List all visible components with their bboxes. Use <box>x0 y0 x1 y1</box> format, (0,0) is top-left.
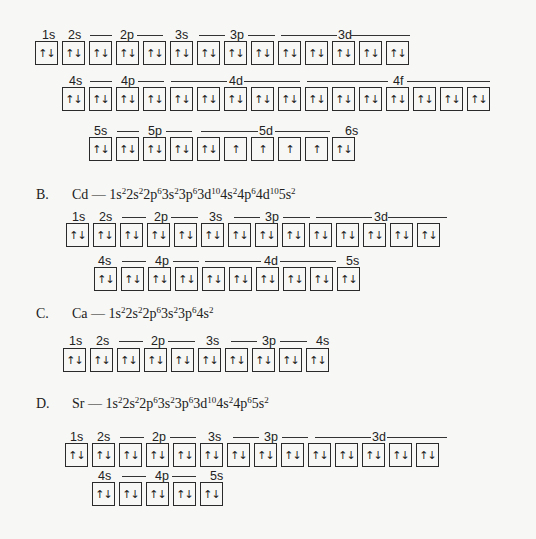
orbital-labels: 1s2s2p3s3p3d <box>0 210 536 224</box>
orbital-box-paired-electrons: ↑↓ <box>229 267 252 291</box>
orbital-box-paired-electrons: ↑↓ <box>359 87 382 111</box>
sublevel-label: 3p <box>262 334 276 348</box>
sublevel-label: 4f <box>393 74 403 88</box>
element-symbol: Sr — <box>72 396 105 411</box>
orbital-box-paired-electrons: ↑↓ <box>198 348 221 372</box>
sublevel-span-line <box>120 437 144 438</box>
orbital-box-paired-electrons: ↑↓ <box>281 443 304 467</box>
sublevel-label: 4s <box>69 74 82 88</box>
orbital-box-row: ↑↓↑↓↑↓↑↓↑↓↑↓↑↓↑↓↑↓↑↓↑↓↑↓↑↓↑↓ <box>35 41 409 65</box>
option-letter: D. <box>36 396 72 412</box>
orbital-box-row: ↑↓↑↓↑↓↑↓↑↓↑↓↑↓↑↓↑↓↑↓ <box>63 348 329 372</box>
orbital-box-single-electron: ↑ <box>278 137 301 161</box>
sublevel-label: 2p <box>120 28 134 42</box>
sublevel-span-line <box>248 35 275 36</box>
orbital-box-row: ↑↓↑↓↑↓↑↓↑↓↑↑↑↑↑↓ <box>89 137 355 161</box>
orbital-box-row: ↑↓↑↓↑↓↑↓↑↓↑↓↑↓↑↓↑↓↑↓↑↓↑↓↑↓↑↓↑↓↑↓ <box>62 87 490 111</box>
sublevel-label: 5p <box>148 124 162 138</box>
orbital-box-paired-electrons: ↑↓ <box>389 443 412 467</box>
orbital-box-paired-electrons: ↑↓ <box>279 348 302 372</box>
sublevel-label: 4s <box>98 469 111 483</box>
sublevel-label: 2p <box>154 210 168 224</box>
sublevel-span-line <box>316 217 372 218</box>
orbital-box-paired-electrons: ↑↓ <box>278 87 301 111</box>
sublevel-span-line <box>173 261 199 262</box>
sublevel-span-line <box>166 131 192 132</box>
orbital-box-paired-electrons: ↑↓ <box>116 137 139 161</box>
sublevel-span-line <box>280 341 307 342</box>
sublevel-span-line <box>387 437 447 438</box>
sublevel-span-line <box>122 476 146 477</box>
sublevel-span-line <box>275 131 330 132</box>
sublevel-label: 4p <box>155 469 169 483</box>
orbital-box-paired-electrons: ↑↓ <box>413 87 436 111</box>
sublevel-label: 6s <box>345 124 358 138</box>
orbital-box-row: ↑↓↑↓↑↓↑↓↑↓↑↓↑↓↑↓↑↓↑↓↑↓↑↓↑↓↑↓ <box>65 443 439 467</box>
orbital-box-paired-electrons: ↑↓ <box>282 223 305 247</box>
sublevel-span-line <box>137 35 163 36</box>
sublevel-label: 5s <box>94 124 107 138</box>
orbital-box-paired-electrons: ↑↓ <box>416 443 439 467</box>
orbital-box-paired-electrons: ↑↓ <box>200 443 223 467</box>
sublevel-span-line <box>205 261 261 262</box>
sublevel-label: 2s <box>97 430 110 444</box>
orbital-box-paired-electrons: ↑↓ <box>146 443 169 467</box>
orbital-box-single-electron: ↑ <box>224 137 247 161</box>
electron-configuration: 1s22s22p63s23p63d104s24p65s2 <box>105 396 268 411</box>
orbital-labels: 4s4p4d5s <box>0 254 536 268</box>
sublevel-span-line <box>234 217 260 218</box>
sublevel-label: 3d <box>372 430 386 444</box>
orbital-labels: 4s4p5s <box>0 469 536 483</box>
sublevel-label: 2s <box>68 28 81 42</box>
sublevel-label: 1s <box>70 430 83 444</box>
orbital-box-paired-electrons: ↑↓ <box>119 482 142 506</box>
orbital-box-row: ↑↓↑↓↑↓↑↓↑↓↑↓↑↓↑↓↑↓↑↓↑↓↑↓↑↓↑↓ <box>66 223 440 247</box>
sublevel-span-line <box>315 437 371 438</box>
orbital-box-paired-electrons: ↑↓ <box>227 443 250 467</box>
orbital-box-paired-electrons: ↑↓ <box>255 223 278 247</box>
sublevel-label: 1s <box>72 210 85 224</box>
sublevel-span-line <box>199 35 225 36</box>
sublevel-span-line <box>122 217 146 218</box>
sublevel-span-line <box>170 437 196 438</box>
orbital-box-paired-electrons: ↑↓ <box>175 267 198 291</box>
orbital-box-paired-electrons: ↑↓ <box>252 348 275 372</box>
orbital-box-paired-electrons: ↑↓ <box>197 41 220 65</box>
orbital-box-paired-electrons: ↑↓ <box>170 87 193 111</box>
sublevel-label: 3p <box>264 430 278 444</box>
orbital-box-paired-electrons: ↑↓ <box>143 137 166 161</box>
orbital-box-single-electron: ↑ <box>305 137 328 161</box>
orbital-box-paired-electrons: ↑↓ <box>359 41 382 65</box>
orbital-box-paired-electrons: ↑↓ <box>386 41 409 65</box>
sublevel-span-line <box>122 261 146 262</box>
sublevel-label: 5d <box>259 124 273 138</box>
sublevel-span-line <box>388 217 447 218</box>
orbital-box-paired-electrons: ↑↓ <box>228 223 251 247</box>
orbital-box-paired-electrons: ↑↓ <box>197 137 220 161</box>
sublevel-span-line <box>171 81 227 82</box>
orbital-box-paired-electrons: ↑↓ <box>225 348 248 372</box>
orbital-labels: 1s2s2p3s3p3d <box>0 28 536 42</box>
orbital-box-paired-electrons: ↑↓ <box>170 137 193 161</box>
option-d-heading: D.Sr — 1s22s22p63s23p63d104s24p65s2 <box>36 396 269 412</box>
sublevel-span-line <box>171 217 198 218</box>
sublevel-label: 4p <box>121 74 135 88</box>
orbital-box-paired-electrons: ↑↓ <box>467 87 490 111</box>
orbital-box-paired-electrons: ↑↓ <box>251 41 274 65</box>
sublevel-label: 3s <box>208 430 221 444</box>
orbital-box-paired-electrons: ↑↓ <box>310 267 333 291</box>
orbital-box-paired-electrons: ↑↓ <box>148 267 171 291</box>
sublevel-span-line <box>90 35 112 36</box>
orbital-box-paired-electrons: ↑↓ <box>171 348 194 372</box>
sublevel-label: 4d <box>229 74 243 88</box>
orbital-box-paired-electrons: ↑↓ <box>147 223 170 247</box>
sublevel-span-line <box>138 81 164 82</box>
orbital-box-paired-electrons: ↑↓ <box>202 267 225 291</box>
orbital-box-paired-electrons: ↑↓ <box>197 87 220 111</box>
orbital-box-paired-electrons: ↑↓ <box>116 41 139 65</box>
orbital-box-paired-electrons: ↑↓ <box>143 41 166 65</box>
orbital-box-paired-electrons: ↑↓ <box>337 267 360 291</box>
orbital-box-paired-electrons: ↑↓ <box>309 223 332 247</box>
orbital-box-paired-electrons: ↑↓ <box>332 41 355 65</box>
option-c-heading: C.Ca — 1s22s22p63s23p64s2 <box>36 306 213 322</box>
